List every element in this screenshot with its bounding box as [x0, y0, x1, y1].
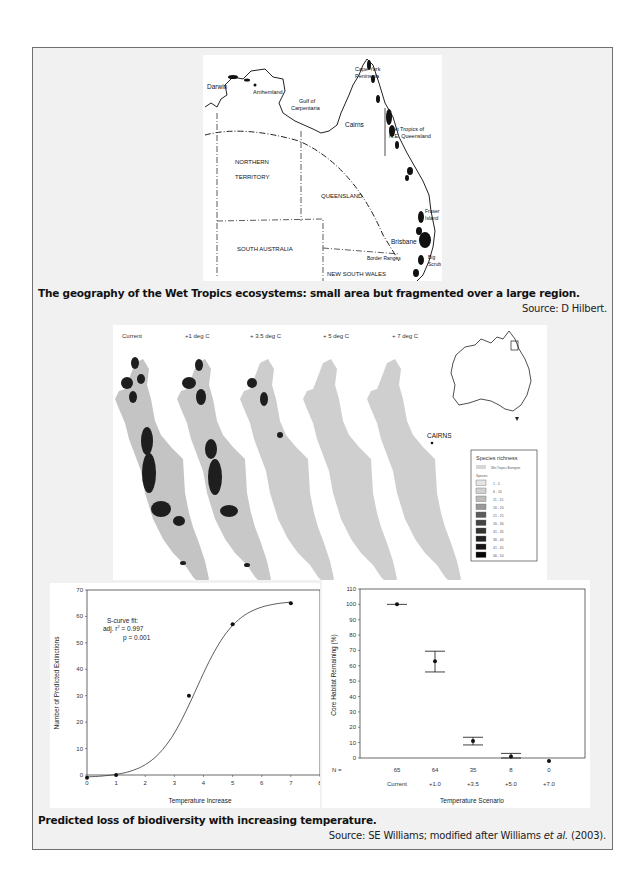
map-label-wet-tropics-1: Wet Tropics of — [389, 126, 425, 132]
legend-swatch — [476, 520, 486, 526]
legend-swatch — [476, 528, 486, 534]
panel-label-plus3-5: + 3.5 deg C — [250, 333, 282, 339]
x-tick-label: Current — [387, 781, 407, 787]
legend-label: 36 - 40 — [493, 538, 504, 542]
data-point — [471, 739, 475, 743]
fit-label-p: p = 0.001 — [123, 634, 151, 642]
panel-label-plus5: + 5 deg C — [323, 333, 350, 339]
map-label-nt-2: TERRITORY — [235, 174, 269, 180]
fit-label-r: adj. r — [103, 625, 118, 633]
legend-label: 26 - 30 — [493, 522, 504, 526]
figure3-source: Source: SE Williams; modified after Will… — [329, 830, 606, 841]
y-tick-label: 70 — [349, 647, 356, 653]
legend-swatch — [476, 544, 486, 550]
y-tick-label: 70 — [76, 587, 83, 593]
data-point — [547, 759, 551, 763]
data-point — [85, 776, 89, 780]
x-tick-label: +7.0 — [543, 781, 556, 787]
x-tick-label: +1.0 — [429, 781, 442, 787]
x-tick-label: 7 — [289, 780, 293, 786]
x-tick-label: 4 — [202, 780, 206, 786]
data-point — [114, 773, 118, 777]
legend-swatch — [476, 496, 486, 502]
y-tick-label: 40 — [349, 694, 356, 700]
left-y-axis-label: Number of Predicted Extinctions — [53, 636, 60, 730]
fit-label-line1: S-curve fit: — [107, 617, 138, 624]
x-tick-label: 8 — [318, 780, 320, 786]
map-label-cape-york-2: Peninsula — [355, 73, 380, 79]
legend-label: 31 - 35 — [493, 530, 504, 534]
map-label-fraser-1: Fraser — [425, 208, 440, 214]
map-label-big-scrub-2: Scrub — [428, 261, 441, 267]
australia-inset-map — [451, 331, 531, 421]
map-label-fraser-2: Island — [425, 215, 439, 221]
n-value: 65 — [394, 767, 401, 773]
x-tick-label: 5 — [231, 780, 235, 786]
y-tick-label: 60 — [349, 663, 356, 669]
species-richness-legend: Species richness Wet Tropics Bioregion S… — [471, 450, 537, 561]
y-tick-label: 100 — [346, 601, 357, 607]
y-tick-label: 20 — [349, 724, 356, 730]
map-label-brisbane: Brisbane — [391, 238, 417, 245]
map-label-nsw: NEW SOUTH WALES — [327, 271, 386, 277]
y-tick-label: 40 — [76, 666, 83, 672]
map-label-big-scrub-1: Big — [428, 254, 435, 260]
y-tick-label: 10 — [76, 746, 83, 752]
legend-label: 6 - 10 — [493, 490, 502, 494]
map-label-border-ranges: Border Ranges — [367, 255, 401, 261]
y-tick-label: 30 — [349, 709, 356, 715]
data-point — [289, 601, 293, 605]
legend-swatch — [476, 552, 486, 558]
figure1-caption: The geography of the Wet Tropics ecosyst… — [38, 287, 580, 299]
cairns-label: CAIRNS — [427, 432, 452, 439]
y-tick-label: 50 — [349, 678, 356, 684]
species-richness-maps: Current +1 deg C + 3.5 deg C + 5 deg C +… — [113, 325, 547, 580]
data-point — [433, 659, 437, 663]
n-value: 35 — [470, 767, 477, 773]
y-tick-label: 10 — [349, 740, 356, 746]
figure3-caption: Predicted loss of biodiversity with incr… — [38, 814, 377, 826]
legend-label: 21 - 25 — [493, 514, 504, 518]
legend-species-heading: Species — [476, 474, 488, 478]
extinctions-chart: 012345678010203040506070 S-curve fit: ad… — [50, 583, 320, 808]
n-value: 64 — [432, 767, 439, 773]
legend-region-label: Wet Tropics Bioregion — [491, 466, 521, 470]
y-tick-label: 0 — [80, 772, 84, 778]
source-italic: et al. — [544, 830, 568, 841]
y-tick-label: 50 — [76, 640, 83, 646]
legend-swatch — [476, 504, 486, 510]
wet-tropics-geography-map: Darwin Arnhemland Gulf of Carpentaria Ca… — [203, 55, 442, 281]
left-x-axis-label: Temperature Increase — [168, 797, 232, 805]
legend-title: Species richness — [476, 455, 518, 461]
source-year: (2003). — [568, 830, 606, 841]
legend-label: 1 - 5 — [493, 482, 500, 486]
x-tick-label: 3 — [173, 780, 177, 786]
y-tick-label: 20 — [76, 719, 83, 725]
map-label-queensland: QUEENSLAND — [321, 193, 363, 199]
x-tick-label: +5.0 — [505, 781, 518, 787]
legend-swatch — [476, 480, 486, 486]
fit-label-r-value: = 0.997 — [120, 625, 144, 632]
figure1-source: Source: D Hilbert. — [522, 303, 607, 314]
x-tick-label: 6 — [260, 780, 264, 786]
map-label-gulf-1: Gulf of — [299, 98, 316, 104]
map-label-wet-tropics-2: N.E. Queensland — [389, 133, 431, 139]
y-tick-label: 90 — [349, 617, 356, 623]
map-label-cape-york-1: Cape York — [355, 66, 381, 72]
legend-label: 41 - 45 — [493, 546, 504, 550]
n-value: 0 — [547, 767, 551, 773]
legend-swatch — [476, 488, 486, 494]
right-y-axis-label: Core Habitat Remaining (%) — [330, 634, 338, 715]
map-label-darwin: Darwin — [207, 83, 228, 90]
panel-label-plus7: + 7 deg C — [392, 333, 419, 339]
svg-text:adj. r2 = 0.997: adj. r2 = 0.997 — [103, 624, 144, 633]
map-label-nt-1: NORTHERN — [235, 159, 269, 165]
legend-swatch — [476, 536, 486, 542]
y-tick-label: 60 — [76, 613, 83, 619]
map-label-gulf-2: Carpentaria — [291, 105, 321, 111]
y-tick-label: 80 — [349, 632, 356, 638]
y-tick-label: 30 — [76, 693, 83, 699]
data-point — [231, 622, 235, 626]
source-text: Source: SE Williams; modified after Will… — [329, 830, 544, 841]
panel-label-current: Current — [122, 333, 142, 339]
